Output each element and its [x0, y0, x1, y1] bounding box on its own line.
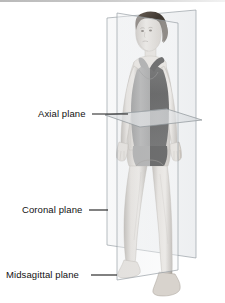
planes-illustration	[0, 0, 225, 303]
label-coronal-plane: Coronal plane	[22, 205, 82, 215]
midsagittal-plane-shape	[117, 13, 178, 280]
anatomical-planes-figure: Axial plane Coronal plane Midsagittal pl…	[0, 0, 225, 303]
label-midsagittal-plane: Midsagittal plane	[6, 270, 79, 280]
label-axial-plane: Axial plane	[38, 109, 86, 119]
